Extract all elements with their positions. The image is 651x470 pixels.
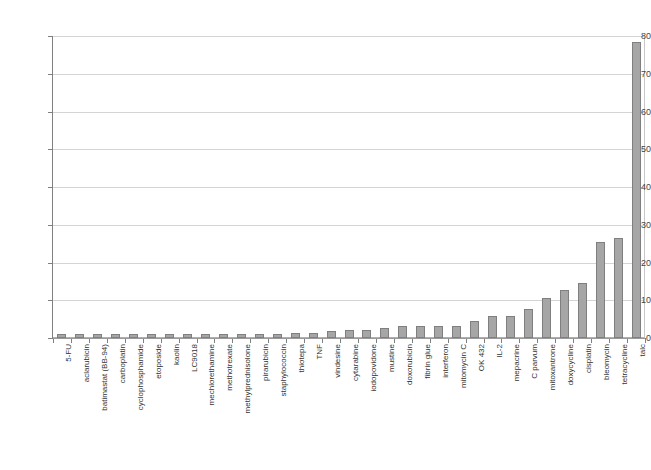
bar: [614, 238, 623, 338]
x-axis-label: doxorubicin: [406, 344, 414, 385]
x-axis-label: staphylococcin: [280, 344, 288, 396]
bar: [111, 334, 120, 338]
x-tick-mark: [412, 339, 413, 343]
x-tick-mark: [466, 339, 467, 343]
x-tick-mark: [179, 339, 180, 343]
bar: [506, 316, 515, 338]
bar: [201, 334, 210, 338]
x-axis-label: thiotepa: [298, 344, 306, 372]
bar: [255, 334, 264, 338]
x-axis-label: 5-FU: [65, 344, 73, 362]
x-tick-mark: [268, 339, 269, 343]
x-axis-label: talc: [639, 344, 647, 356]
x-axis-label: methylprednisolone: [244, 344, 252, 413]
x-tick-mark: [358, 339, 359, 343]
x-axis-label: C parvum: [531, 344, 539, 379]
bar: [291, 333, 300, 338]
x-tick-mark: [394, 339, 395, 343]
x-axis-label: interferon: [442, 344, 450, 378]
bar: [398, 326, 407, 338]
x-axis-label: cyclophosphamide: [137, 344, 145, 410]
bar: [309, 333, 318, 338]
x-tick-mark: [484, 339, 485, 343]
bar: [578, 283, 587, 338]
x-tick-mark: [340, 339, 341, 343]
x-axis-label: TNF: [316, 344, 324, 360]
bar: [165, 334, 174, 338]
x-tick-mark: [107, 339, 108, 343]
bar: [93, 334, 102, 338]
x-axis-label: mitoxantrone: [549, 344, 557, 390]
bar: [380, 328, 389, 338]
x-axis-label: methotrexate: [226, 344, 234, 391]
x-tick-mark: [609, 339, 610, 343]
x-axis-label: mechlorethamine: [208, 344, 216, 405]
x-tick-mark: [161, 339, 162, 343]
x-tick-mark: [214, 339, 215, 343]
x-axis-label: kaolin: [173, 344, 181, 365]
x-axis-label: carboplatin: [119, 344, 127, 383]
x-tick-mark: [537, 339, 538, 343]
x-axis-label: pirarubicin: [262, 344, 270, 381]
x-axis-label: LC9018: [191, 344, 199, 372]
bar: [345, 330, 354, 338]
x-axis-label: mitomycin C: [460, 344, 468, 388]
x-tick-mark: [286, 339, 287, 343]
x-axis-label: cisplatin: [585, 344, 593, 373]
bar: [452, 326, 461, 338]
x-tick-mark: [53, 339, 54, 343]
bar: [416, 326, 425, 338]
x-axis-label: batimastat (BB-94): [101, 344, 109, 411]
x-tick-mark: [376, 339, 377, 343]
bar: [542, 298, 551, 338]
x-tick-mark: [304, 339, 305, 343]
bar: [470, 321, 479, 338]
bar: [434, 326, 443, 338]
bar-chart: 01020304050607080 5-FUaclarubicinbatimas…: [0, 0, 651, 470]
bar: [524, 309, 533, 338]
x-tick-mark: [232, 339, 233, 343]
x-tick-mark: [501, 339, 502, 343]
x-tick-mark: [519, 339, 520, 343]
bars-layer: [53, 36, 645, 338]
x-axis-labels: 5-FUaclarubicinbatimastat (BB-94)carbopl…: [53, 344, 645, 464]
x-axis-label: IL-2: [496, 344, 504, 358]
bar: [219, 334, 228, 338]
bar: [75, 334, 84, 338]
x-axis-label: bleomycin: [603, 344, 611, 380]
x-tick-mark: [89, 339, 90, 343]
x-axis-label: aclarubicin: [83, 344, 91, 382]
x-tick-mark: [555, 339, 556, 343]
x-tick-mark: [125, 339, 126, 343]
x-tick-mark: [143, 339, 144, 343]
bar: [237, 334, 246, 338]
x-axis-label: tetracycline: [621, 344, 629, 384]
bar: [129, 334, 138, 338]
x-axis-label: fibrin glue: [424, 344, 432, 379]
x-axis-label: OK 432: [478, 344, 486, 371]
x-tick-mark: [197, 339, 198, 343]
bar: [632, 42, 641, 338]
x-tick-mark: [645, 339, 646, 343]
x-tick-mark: [250, 339, 251, 343]
bar: [596, 242, 605, 338]
bar: [488, 316, 497, 338]
x-axis-label: iodopovidone: [370, 344, 378, 392]
x-axis-label: mustine: [388, 344, 396, 372]
x-axis-label: doxycycline: [567, 344, 575, 385]
bar: [560, 290, 569, 338]
x-tick-mark: [573, 339, 574, 343]
x-axis-label: vindesine: [334, 344, 342, 378]
bar: [362, 330, 371, 338]
bar: [273, 334, 282, 338]
bar: [183, 334, 192, 338]
x-axis-label: cytarabine: [352, 344, 360, 381]
bar: [57, 334, 66, 338]
bar: [147, 334, 156, 338]
x-tick-mark: [627, 339, 628, 343]
x-tick-mark: [430, 339, 431, 343]
x-tick-mark: [322, 339, 323, 343]
x-axis-label: etoposide: [155, 344, 163, 379]
bar: [327, 331, 336, 338]
x-tick-mark: [591, 339, 592, 343]
